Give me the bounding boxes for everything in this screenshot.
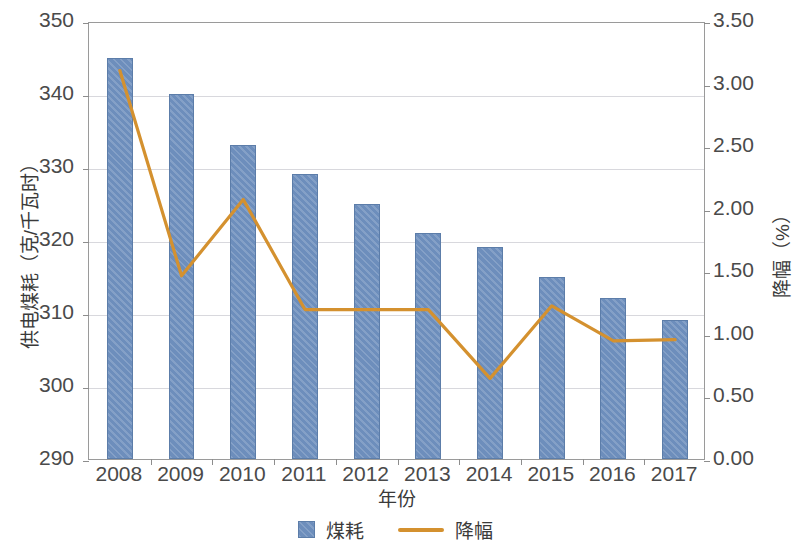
decline-rate-line xyxy=(120,71,675,379)
y-axis-left-tickmark xyxy=(83,388,89,389)
bar xyxy=(169,94,195,459)
legend-swatch-bar-icon xyxy=(298,521,315,538)
y-axis-right-tickmark xyxy=(704,398,710,399)
x-axis-tick-label: 2013 xyxy=(396,462,458,486)
bar xyxy=(354,204,380,460)
y-axis-right-tick-label: 0.50 xyxy=(713,383,775,407)
y-axis-left-ticks: 290300310320330340350 xyxy=(22,0,74,541)
y-axis-right-tickmark xyxy=(704,336,710,337)
y-axis-left-tick-label: 320 xyxy=(22,227,74,251)
bar xyxy=(230,145,256,459)
y-axis-right-tick-label: 2.50 xyxy=(713,133,775,157)
y-axis-right-tick-label: 2.00 xyxy=(713,196,775,220)
chart-legend: 煤耗 降幅 xyxy=(0,516,791,541)
y-axis-right-tickmark xyxy=(704,211,710,212)
legend-label-line: 降幅 xyxy=(455,516,493,541)
y-axis-right-tick-label: 3.00 xyxy=(713,71,775,95)
y-axis-left-tick-label: 350 xyxy=(22,8,74,32)
y-axis-left-tick-label: 300 xyxy=(22,373,74,397)
y-axis-right-tick-label: 1.00 xyxy=(713,321,775,345)
x-axis-tick-label: 2012 xyxy=(335,462,397,486)
bar xyxy=(539,277,565,460)
y-axis-left-tickmark xyxy=(83,315,89,316)
y-axis-left-tickmark xyxy=(83,242,89,243)
legend-item-line: 降幅 xyxy=(398,516,493,541)
y-axis-right-tickmark xyxy=(704,273,710,274)
x-axis-tick-label: 2017 xyxy=(643,462,705,486)
legend-label-bar: 煤耗 xyxy=(326,516,364,541)
x-axis-tick-label: 2008 xyxy=(88,462,150,486)
x-axis-tick-label: 2009 xyxy=(150,462,212,486)
bar xyxy=(415,233,441,459)
y-axis-left-tick-label: 290 xyxy=(22,446,74,470)
y-axis-left-tickmark xyxy=(83,96,89,97)
y-axis-left-tickmark xyxy=(83,169,89,170)
bar xyxy=(600,298,626,459)
plot-area xyxy=(88,22,705,460)
bar xyxy=(292,174,318,459)
y-axis-left-tickmark xyxy=(83,23,89,24)
y-axis-right-tick-label: 1.50 xyxy=(713,258,775,282)
x-axis-title: 年份 xyxy=(88,484,705,511)
x-axis-tick-label: 2011 xyxy=(273,462,335,486)
legend-item-bar: 煤耗 xyxy=(298,516,364,541)
y-axis-left-tick-label: 340 xyxy=(22,81,74,105)
bar xyxy=(662,320,688,459)
y-axis-right-tickmark xyxy=(704,86,710,87)
y-axis-right-tickmark xyxy=(704,23,710,24)
y-axis-left-tick-label: 330 xyxy=(22,154,74,178)
bar xyxy=(477,247,503,459)
y-axis-left-tick-label: 310 xyxy=(22,300,74,324)
x-axis-tick-label: 2010 xyxy=(211,462,273,486)
y-axis-right-tick-label: 3.50 xyxy=(713,8,775,32)
y-axis-right-tick-label: 0.00 xyxy=(713,446,775,470)
y-axis-right-tickmark xyxy=(704,148,710,149)
x-axis-tick-label: 2014 xyxy=(458,462,520,486)
y-axis-right-ticks: 0.000.501.001.502.002.503.003.50 xyxy=(713,0,775,541)
x-axis-tick-label: 2015 xyxy=(520,462,582,486)
legend-swatch-line-icon xyxy=(398,528,444,532)
x-axis-tick-label: 2016 xyxy=(581,462,643,486)
bar xyxy=(107,58,133,460)
